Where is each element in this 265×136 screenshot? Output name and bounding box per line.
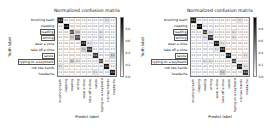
x-tick-label: rub two hands bbox=[106, 79, 110, 112]
x-axis-label: Predict label bbox=[190, 114, 250, 119]
matrix-cell: 0.8 bbox=[243, 70, 249, 76]
colorbar-tick-label: 0.6 bbox=[126, 40, 131, 43]
colorbar-tick-label: 0.0 bbox=[259, 76, 264, 79]
colorbar-tick-label: 0.2 bbox=[259, 64, 264, 67]
colorbar-tick-label: 0.8 bbox=[126, 28, 131, 31]
x-tick-label: take off a shoe bbox=[88, 79, 92, 112]
x-tick-label: salute bbox=[94, 79, 98, 112]
y-tick-labels: brushing teethclappingreadingwritingwear… bbox=[10, 17, 55, 77]
colorbar-tick-label: 0.2 bbox=[126, 64, 131, 67]
x-tick-label: rub two hands bbox=[239, 79, 243, 112]
y-tick-label: headache bbox=[10, 71, 55, 77]
colorbar bbox=[120, 17, 124, 77]
colorbar-tick-label: 0.8 bbox=[259, 28, 264, 31]
x-tick-label: reading bbox=[70, 79, 74, 112]
x-tick-label: clapping bbox=[197, 79, 201, 112]
x-tick-label: brushing teeth bbox=[58, 79, 62, 112]
x-tick-label: wear a shoe bbox=[82, 79, 86, 112]
colorbar-tick-label: 0.4 bbox=[126, 52, 131, 55]
x-tick-label: reading bbox=[203, 79, 207, 112]
x-tick-label: headache bbox=[245, 79, 249, 112]
confusion-matrix-grid: 0.90.00.00.00.00.00.00.00.10.00.01.00.00… bbox=[57, 17, 117, 77]
x-tick-label: wear a shoe bbox=[215, 79, 219, 112]
left-confusion-matrix-panel: Normalized confusion matrix Truth label … bbox=[0, 0, 132, 136]
x-tick-label: salute bbox=[227, 79, 231, 112]
colorbar-tick-label: 0.0 bbox=[126, 76, 131, 79]
x-tick-label: brushing teeth bbox=[191, 79, 195, 112]
x-tick-label: typing on a keyboard bbox=[233, 79, 237, 112]
x-tick-label: take off a shoe bbox=[221, 79, 225, 112]
colorbar-tick-label: 0.4 bbox=[259, 52, 264, 55]
figure: Normalized confusion matrix Truth label … bbox=[0, 0, 265, 136]
x-tick-label: typing on a keyboard bbox=[100, 79, 104, 112]
chart-title: Normalized confusion matrix bbox=[27, 8, 147, 13]
right-confusion-matrix-panel: Normalized confusion matrix Truth label … bbox=[133, 0, 265, 136]
x-tick-label: headache bbox=[112, 79, 116, 112]
colorbar-tick-label: 0.6 bbox=[259, 40, 264, 43]
y-tick-label: headache bbox=[143, 71, 188, 77]
x-tick-label: writing bbox=[76, 79, 80, 112]
x-tick-label: clapping bbox=[64, 79, 68, 112]
x-tick-label: writing bbox=[209, 79, 213, 112]
colorbar bbox=[253, 17, 257, 77]
x-axis-label: Predict label bbox=[57, 114, 117, 119]
y-tick-labels: brushing teethclappingreadingwritingwear… bbox=[143, 17, 188, 77]
chart-title: Normalized confusion matrix bbox=[160, 8, 265, 13]
matrix-cell: 0.9 bbox=[110, 70, 116, 76]
confusion-matrix-grid: 0.90.00.00.00.00.00.00.00.10.00.01.00.00… bbox=[190, 17, 250, 77]
